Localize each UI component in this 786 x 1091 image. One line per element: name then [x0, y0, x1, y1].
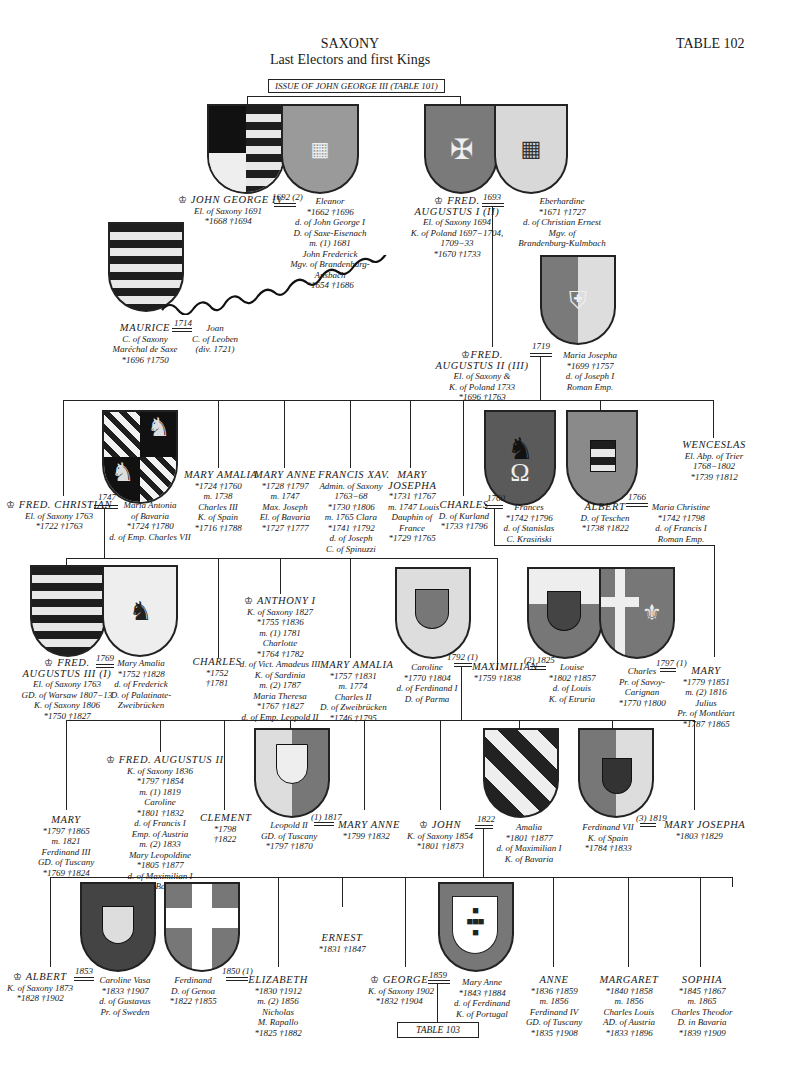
- marriage-symbol: [226, 977, 248, 981]
- marriage-date: 1853: [75, 966, 93, 976]
- tree-line: [364, 720, 365, 810]
- marriage-symbol: [428, 980, 450, 984]
- tree-line: [494, 509, 495, 545]
- crown-icon: ♔: [106, 754, 116, 765]
- coat-of-arms-bavaria: [483, 728, 559, 818]
- tree-line: [50, 877, 732, 878]
- tree-line: [494, 545, 714, 546]
- person-anthony-i[interactable]: ♔ ANTHONY I K. of Saxony 1827 *1755 †183…: [236, 596, 324, 722]
- person-maurice[interactable]: MAURICE C. of Saxony Maréchal de Saxe *1…: [110, 323, 180, 365]
- tree-line: [497, 558, 498, 670]
- person-wenceslas[interactable]: WENCESLAS El. Abp. of Trier 1768−1802 *1…: [682, 440, 746, 482]
- tree-line: [612, 720, 613, 728]
- crown-icon: ♔: [178, 194, 188, 205]
- person-amalia[interactable]: Amalia *1801 †1877 d. of Maximilian I K.…: [494, 822, 564, 864]
- tree-line: [224, 720, 225, 810]
- tree-line: [628, 877, 629, 967]
- person-mary-josepha-1803[interactable]: MARY JOSEPHA *1803 †1829: [664, 820, 734, 841]
- person-mary-anne-portugal[interactable]: Mary Anne *1843 †1884 d. of Ferdinand K.…: [450, 977, 514, 1019]
- person-mary-anne[interactable]: MARY ANNE *1728 †1797 m. 1747 Max. Josep…: [254, 470, 316, 533]
- tree-line: [519, 720, 520, 728]
- person-ferdinand-genoa[interactable]: Ferdinand D. of Genoa *1822 †1855: [166, 975, 220, 1007]
- person-clement[interactable]: CLEMENT *1798 †1822: [200, 813, 250, 845]
- person-sophia[interactable]: SOPHIA *1845 †1867 m. 1865 Charles Theod…: [670, 975, 734, 1038]
- coat-of-arms-poland-lithuania: ⛨: [540, 255, 616, 345]
- person-caroline-parma[interactable]: Caroline *1770 †1804 d. of Ferdinand I D…: [396, 662, 458, 704]
- person-charles-kurland[interactable]: CHARLES D. of Kurland *1733 †1796: [438, 500, 490, 532]
- coat-of-arms-spain: [578, 728, 654, 818]
- person-ernest[interactable]: ERNEST *1831 †1847: [312, 933, 372, 954]
- person-mary-josepha[interactable]: MARY JOSEPHA *1731 †1767 m. 1747 Louis D…: [388, 470, 436, 544]
- tree-line: [713, 400, 714, 438]
- coat-of-arms-palatinate: ♞: [102, 565, 178, 657]
- person-fred-augustus-ii[interactable]: ♔FRED. AUGUSTUS II (III) El. of Saxony &…: [432, 350, 532, 403]
- person-anne[interactable]: ANNE *1836 †1859 m. 1856 Ferdinand IV GD…: [524, 975, 584, 1038]
- tree-line: [700, 877, 701, 967]
- crown-icon: ♔: [419, 819, 429, 830]
- crown-icon: ♔: [244, 595, 254, 606]
- tree-line: [405, 877, 406, 967]
- tree-line: [600, 400, 601, 410]
- marriage-symbol: [314, 822, 334, 826]
- person-mary-amalia-zweibrucken[interactable]: Mary Amalia *1752 †1828 d. of Frederick …: [110, 658, 172, 711]
- table-103-link[interactable]: TABLE 103: [397, 1022, 479, 1038]
- coat-of-arms-kurland: ♞ Ω: [484, 410, 556, 506]
- marriage-symbol: [475, 825, 493, 829]
- person-charles-1752[interactable]: CHARLES *1752 †1781: [192, 657, 242, 689]
- person-maximilian[interactable]: MAXIMILIAN *1759 †1838: [472, 662, 522, 683]
- tree-line: [342, 877, 343, 907]
- person-elizabeth[interactable]: ELIZABETH *1830 †1912 m. (2) 1856 Nichol…: [248, 975, 308, 1038]
- person-joan[interactable]: Joan C. of Leoben (div. 1721): [185, 323, 245, 355]
- tree-line: [350, 400, 351, 468]
- person-john-george-iv[interactable]: ♔ JOHN GEORGE IV El. of Saxony 1691 *166…: [178, 195, 278, 227]
- person-louise[interactable]: Louise *1802 †1857 d. of Louis K. of Etr…: [540, 662, 604, 704]
- tree-line: [553, 877, 554, 967]
- tree-line: [63, 400, 713, 401]
- person-albert-king[interactable]: ♔ ALBERT K. of Saxony 1873 *1828 †1902: [2, 972, 78, 1004]
- person-leopold-ii[interactable]: Leopold II GD. of Tuscany *1797 †1870: [256, 820, 322, 852]
- coat-of-arms-sweden: ♔ ♔: [80, 882, 156, 972]
- page-title: SAXONY Last Electors and first Kings: [250, 36, 450, 68]
- marriage-symbol: [640, 823, 656, 827]
- tree-line: [350, 558, 351, 658]
- person-mary-1797[interactable]: MARY *1797 †1865 m. 1821 Ferdinand III G…: [34, 815, 98, 878]
- tree-line: [218, 400, 219, 468]
- tree-line: [66, 720, 67, 810]
- person-mary-amalia[interactable]: MARY AMALIA *1724 †1760 m. 1738 Charles …: [184, 470, 252, 533]
- person-fred-augustus-ii-king[interactable]: ♔ FRED. AUGUSTUS II K. of Saxony 1836 *1…: [106, 755, 214, 892]
- person-george[interactable]: ♔ GEORGE K. of Saxony 1902 *1832 †1904: [368, 975, 430, 1007]
- crown-icon: ♔: [370, 974, 380, 985]
- tree-line: [218, 558, 219, 658]
- tree-line: [410, 400, 411, 468]
- coat-of-arms-brandenburg: ▦: [494, 104, 568, 194]
- person-charles-carignan[interactable]: Charles Pr. of Savoy- Carignan *1770 †18…: [612, 666, 672, 708]
- marriage-date: 1822: [477, 814, 495, 824]
- person-caroline-vasa[interactable]: Caroline Vasa *1833 †1907 d. of Gustavus…: [92, 975, 158, 1017]
- person-maria-christine[interactable]: Maria Christine *1742 †1798 d. of Franci…: [644, 502, 718, 544]
- person-maria-josepha[interactable]: Maria Josepha *1699 †1757 d. of Joseph I…: [555, 350, 625, 392]
- tree-line: [247, 96, 248, 104]
- person-francis-xav[interactable]: FRANCIS XAV. Admin. of Saxony 1763−68 *1…: [318, 470, 384, 554]
- person-maria-antonia[interactable]: Maria Antonia of Bavaria *1724 †1780 d. …: [106, 500, 194, 542]
- table-number: TABLE 102: [676, 36, 744, 52]
- coat-of-arms-poland-saxony: ✠: [424, 104, 498, 194]
- tree-line: [461, 667, 462, 720]
- marriage-date: (3) 1819: [636, 813, 667, 823]
- tree-line: [460, 96, 461, 104]
- person-eberhardine[interactable]: Eberhardine *1671 †1727 d. of Christian …: [502, 196, 622, 249]
- person-frances[interactable]: Frances *1742 †1796 d. of Stanislas C. K…: [496, 502, 562, 544]
- person-margaret[interactable]: MARGARET *1840 †1858 m. 1856 Charles Lou…: [598, 975, 660, 1038]
- tree-line: [278, 877, 279, 967]
- crown-icon: ♔: [461, 349, 471, 360]
- tree-line: [694, 720, 695, 810]
- marriage-symbol: [454, 663, 472, 667]
- person-ferdinand-vii[interactable]: Ferdinand VII K. of Spain *1784 †1833: [580, 822, 636, 854]
- person-mary-amalia-1757[interactable]: MARY AMALIA *1757 †1831 m. 1774 Charles …: [320, 660, 386, 723]
- person-john[interactable]: ♔ JOHN K. of Saxony 1854 *1801 †1873: [402, 820, 478, 852]
- title-text: SAXONY: [250, 36, 450, 52]
- coat-of-arms-savoy-genoa: [164, 882, 240, 972]
- subtitle-text: Last Electors and first Kings: [250, 52, 450, 68]
- person-mary-anne-1799[interactable]: MARY ANNE *1799 †1832: [338, 820, 394, 841]
- coat-of-arms-saxony: [207, 104, 285, 194]
- tree-line: [290, 720, 291, 728]
